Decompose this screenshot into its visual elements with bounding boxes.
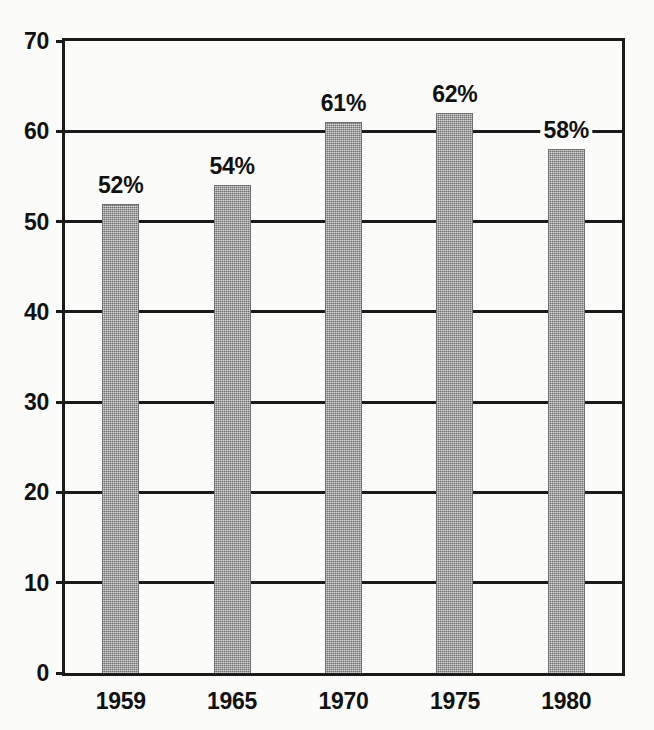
bar-value-label: 52% xyxy=(95,174,146,197)
y-axis-tick-label: 40 xyxy=(24,300,49,323)
bar-value-label: 62% xyxy=(429,83,480,106)
bar xyxy=(548,149,585,673)
y-axis-tick-label: 70 xyxy=(24,30,49,53)
y-axis-tick-label: 60 xyxy=(24,120,49,143)
x-axis-category-label: 1975 xyxy=(430,690,480,713)
bar xyxy=(325,122,362,673)
x-axis-category-label: 1970 xyxy=(319,690,369,713)
y-axis-tick xyxy=(56,401,65,404)
y-axis-tick-label: 50 xyxy=(24,210,49,233)
y-axis-tick-label: 10 xyxy=(24,571,49,594)
y-axis-tick xyxy=(56,310,65,313)
y-axis-tick xyxy=(56,40,65,43)
y-axis-tick xyxy=(56,130,65,133)
y-axis-tick-label: 30 xyxy=(24,391,49,414)
chart-page: 010203040506070 52%54%61%62%58% 19591965… xyxy=(0,0,654,730)
bar-value-label: 58% xyxy=(541,119,592,142)
y-axis-tick-label: 20 xyxy=(24,481,49,504)
bar-value-label: 61% xyxy=(318,92,369,115)
y-axis-tick xyxy=(56,220,65,223)
bar xyxy=(214,185,251,673)
y-axis-tick xyxy=(56,672,65,675)
x-axis-category-label: 1980 xyxy=(541,690,591,713)
y-axis-tick xyxy=(56,581,65,584)
x-axis-category-label: 1959 xyxy=(96,690,146,713)
y-axis-tick-label: 0 xyxy=(37,662,50,685)
bar-value-label: 54% xyxy=(206,155,257,178)
y-axis-tick xyxy=(56,491,65,494)
x-axis-category-label: 1965 xyxy=(207,690,257,713)
bar xyxy=(102,204,139,673)
bar xyxy=(436,113,473,673)
